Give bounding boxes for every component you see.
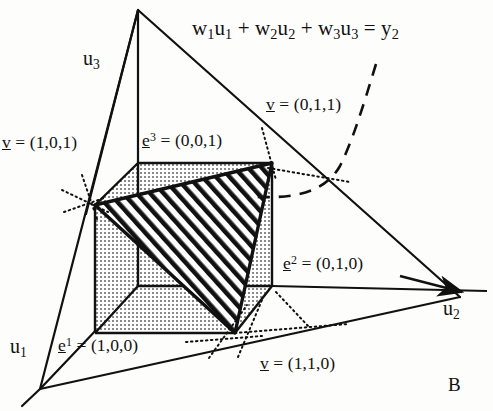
vertex-label-v-011: v = (0,1,1) — [266, 96, 341, 114]
v110-coords: (1,1,0) — [288, 353, 335, 373]
eq-plus1: + — [238, 16, 250, 40]
e2-coords: (0,1,0) — [316, 253, 363, 273]
e1-equals: = — [76, 335, 86, 355]
eq-plus2: + — [301, 16, 313, 40]
e2-symbol: e — [283, 253, 291, 273]
axis-label-u3: u3 — [83, 48, 100, 68]
e1-sup: 1 — [66, 335, 72, 349]
hyperplane-equation: w1u1 + w2u2 + w3u3 = y2 — [192, 18, 399, 39]
eq-w2-sub: 2 — [270, 26, 277, 42]
eq-u2-sub: 2 — [288, 26, 295, 42]
eq-w2: w — [255, 16, 270, 40]
dotted-e2 — [276, 292, 310, 328]
figure-container: w1u1 + w2u2 + w3u3 = y2 u3 u2 u1 v = (1,… — [0, 0, 493, 411]
v110-equals: = — [273, 353, 283, 373]
e2-sup: 2 — [291, 253, 297, 267]
eq-y: y — [381, 16, 392, 40]
eq-y-sub: 2 — [392, 26, 399, 42]
vertex-label-v-101: v = (1,0,1) — [2, 134, 77, 152]
eq-u3-sub: 3 — [351, 26, 358, 42]
eq-u3: u — [341, 16, 352, 40]
e1-symbol: e — [58, 335, 66, 355]
eq-u2: u — [278, 16, 289, 40]
v101-symbol: v — [2, 132, 11, 152]
v101-coords: (1,0,1) — [30, 132, 77, 152]
axis-u2-sub: 2 — [453, 307, 460, 322]
vertex-label-v-110: v = (1,1,0) — [260, 355, 335, 373]
e3-coords: (0,0,1) — [175, 130, 222, 150]
axis-tail-u1 — [22, 389, 40, 406]
e3-equals: = — [160, 130, 170, 150]
axis-u1-sub: 1 — [20, 345, 27, 360]
eq-w1: w — [192, 16, 207, 40]
e3-symbol: e — [142, 130, 150, 150]
eq-u1-sub: 1 — [225, 26, 232, 42]
axis-label-u2: u2 — [443, 298, 460, 318]
v011-symbol: v — [266, 94, 275, 114]
vertex-label-e3-001: e3 = (0,0,1) — [142, 132, 222, 150]
v011-coords: (0,1,1) — [294, 94, 341, 114]
axis-arrow-u2 — [272, 276, 487, 292]
figure-caption-letter: B — [448, 375, 461, 394]
vertex-label-e1-100: e1 = (1,0,0) — [58, 337, 138, 355]
eq-u1: u — [215, 16, 226, 40]
vertex-label-e2-010: e2 = (0,1,0) — [283, 255, 363, 273]
axis-u3-sub: 3 — [93, 57, 100, 72]
v110-symbol: v — [260, 353, 269, 373]
e2-equals: = — [301, 253, 311, 273]
eq-w3-sub: 3 — [333, 26, 340, 42]
axis-u1-base: u — [10, 335, 20, 357]
axis-u3-base: u — [83, 47, 93, 69]
axis-u2-base: u — [443, 297, 453, 319]
e3-sup: 3 — [150, 130, 156, 144]
eq-w1-sub: 1 — [207, 26, 214, 42]
axis-label-u1: u1 — [10, 336, 27, 356]
v011-equals: = — [279, 94, 289, 114]
e1-coords: (1,0,0) — [91, 335, 138, 355]
v101-equals: = — [15, 132, 25, 152]
eq-equals: = — [364, 16, 376, 40]
eq-w3: w — [318, 16, 333, 40]
